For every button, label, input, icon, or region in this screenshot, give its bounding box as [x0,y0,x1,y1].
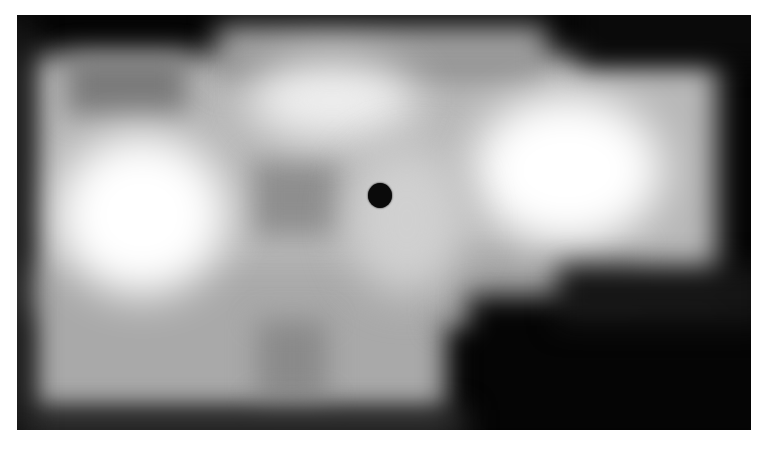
dark-edge-left [17,15,32,430]
marker-dot [368,183,392,208]
bright-region-left [57,135,227,295]
light-region-center [347,145,467,295]
dark-corner-bottom-right-2 [557,265,751,325]
dark-patch-lower [257,320,327,400]
dark-corner-top-right [577,15,751,65]
intensity-map-frame [17,15,751,430]
dark-patch-top-left [67,55,187,115]
dark-patch-center [252,160,342,235]
bright-region-right [472,95,662,245]
bright-region-top [247,60,417,140]
dark-edge-bottom [17,410,467,430]
